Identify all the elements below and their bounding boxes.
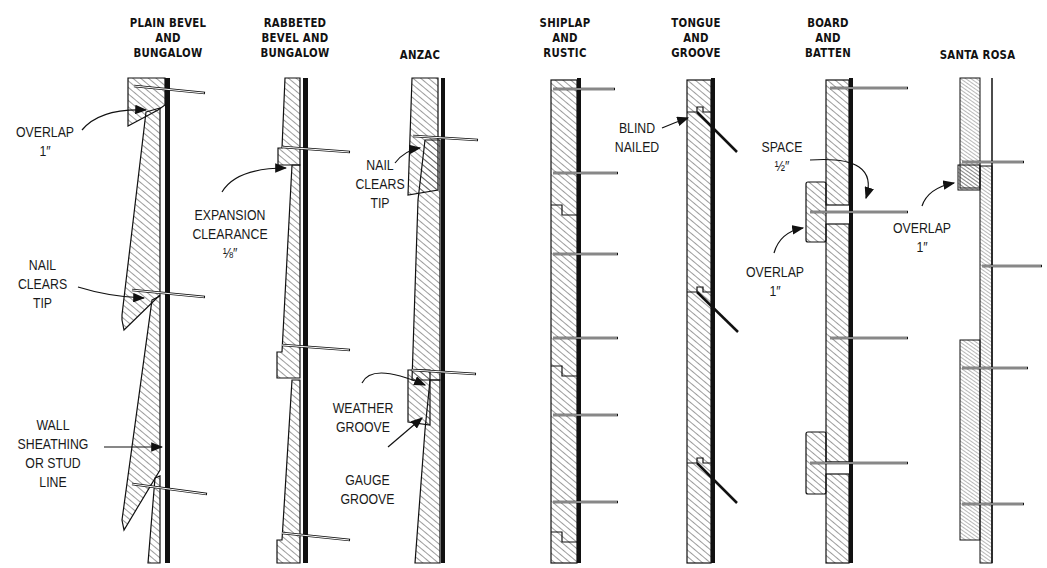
plain-bevel-section [78, 78, 207, 563]
santa-rosa-section [922, 78, 1042, 563]
rabbeted-bevel-section [222, 78, 350, 563]
title-anzac: ANZAC [386, 48, 454, 63]
label-expansion-clearance: EXPANSION CLEARANCE ⅛″ [189, 205, 271, 262]
title-board-batten: BOARD AND BATTEN [794, 16, 862, 61]
title-tongue-groove: TONGUE AND GROOVE [662, 16, 730, 61]
title-rabbeted-bevel: RABBETED BEVEL AND BUNGALOW [248, 16, 342, 61]
label-weather-groove: WEATHER GROOVE [326, 398, 400, 436]
label-nail-clears-plain: NAIL CLEARS TIP [16, 255, 69, 312]
title-santa-rosa: SANTA ROSA [929, 48, 1027, 63]
title-plain-bevel: PLAIN BEVEL AND BUNGALOW [109, 16, 228, 61]
title-shiplap: SHIPLAP AND RUSTIC [531, 16, 599, 61]
label-blind-nailed: BLIND NAILED [608, 118, 665, 156]
label-space: SPACE ½″ [757, 137, 806, 175]
label-wall-sheathing: WALL SHEATHING OR STUD LINE [16, 415, 90, 491]
label-overlap-plain: OVERLAP 1″ [12, 122, 78, 160]
label-nail-clears-anzac: NAIL CLEARS TIP [355, 155, 404, 212]
siding-diagram [0, 0, 1047, 568]
tongue-groove-section [662, 78, 738, 563]
label-overlap-batten: OVERLAP 1″ [742, 262, 808, 300]
label-gauge-groove: GAUGE GROOVE [337, 470, 399, 508]
label-overlap-santa-rosa: OVERLAP 1″ [889, 218, 955, 256]
